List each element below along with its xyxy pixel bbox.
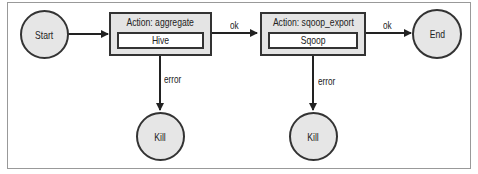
edge-label-ok-2: ok <box>383 20 392 31</box>
action-type-box: Hive <box>117 32 204 49</box>
end-node[interactable]: End <box>412 9 462 59</box>
end-label: End <box>429 28 444 40</box>
kill-label: Kill <box>308 131 319 143</box>
edge-label-error-1: error <box>164 74 181 85</box>
start-label: Start <box>35 29 53 41</box>
action-title: Action: sqoop_export <box>262 16 364 28</box>
edge-label-ok-1: ok <box>230 20 239 31</box>
action-type-box: Sqoop <box>268 32 358 49</box>
action-sqoop-export[interactable]: Action: sqoop_export Sqoop <box>260 12 366 56</box>
kill-node-1[interactable]: Kill <box>136 112 185 161</box>
edge-label-error-2: error <box>318 76 335 87</box>
kill-node-2[interactable]: Kill <box>289 112 338 161</box>
action-title: Action: aggregate <box>111 16 210 28</box>
start-node[interactable]: Start <box>20 10 69 59</box>
kill-label: Kill <box>155 131 166 143</box>
action-aggregate[interactable]: Action: aggregate Hive <box>109 12 212 56</box>
